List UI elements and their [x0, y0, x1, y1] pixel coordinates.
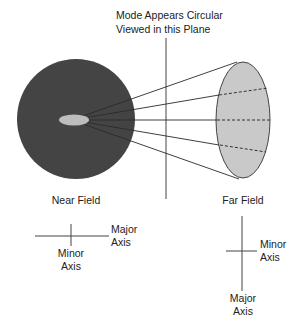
far-minor-axis-label-1: Minor — [260, 238, 287, 250]
near-major-axis-label-2: Axis — [111, 236, 131, 248]
far-major-axis-label-2: Axis — [233, 305, 253, 317]
near-major-axis-label-1: Major — [111, 223, 138, 235]
near-field-label: Near Field — [52, 194, 101, 206]
near-field-axes: Major Axis Minor Axis — [35, 223, 138, 272]
mode-field-diagram: Mode Appears Circular Viewed in this Pla… — [0, 0, 300, 330]
mode-spot — [59, 115, 89, 126]
far-field-axes: Minor Axis Major Axis — [226, 216, 287, 317]
title-line-2: Viewed in this Plane — [116, 23, 211, 35]
far-minor-axis-label-2: Axis — [260, 251, 280, 263]
near-minor-axis-label-1: Minor — [58, 247, 85, 259]
near-minor-axis-label-2: Axis — [61, 260, 81, 272]
far-field-label: Far Field — [222, 194, 264, 206]
far-major-axis-label-1: Major — [230, 292, 257, 304]
title-line-1: Mode Appears Circular — [116, 9, 223, 21]
